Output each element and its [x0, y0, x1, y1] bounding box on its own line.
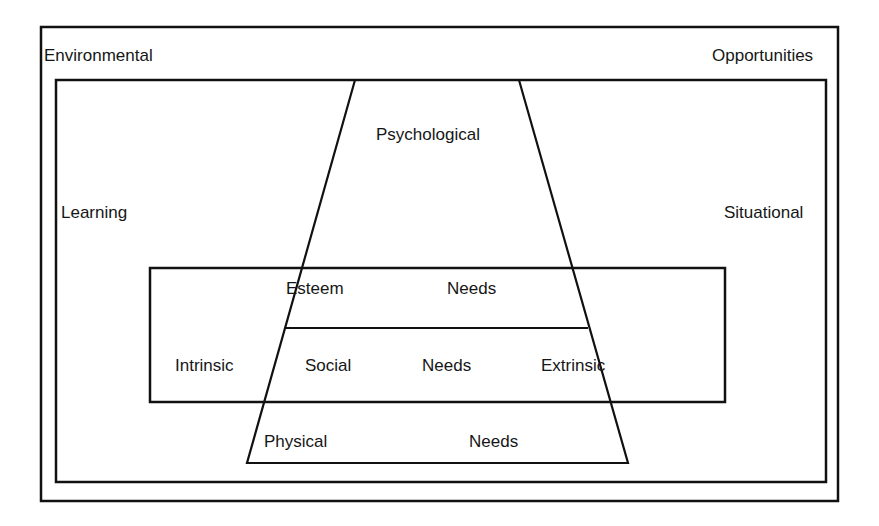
esteem-label: Esteem	[286, 279, 344, 299]
social-needs-label: Needs	[422, 356, 471, 376]
learning-label: Learning	[61, 203, 127, 223]
physical-needs-label: Needs	[469, 432, 518, 452]
esteem-needs-label: Needs	[447, 279, 496, 299]
extrinsic-label: Extrinsic	[541, 356, 605, 376]
physical-label: Physical	[264, 432, 327, 452]
opportunities-label: Opportunities	[712, 46, 813, 66]
outer-frame	[41, 27, 838, 501]
social-label: Social	[305, 356, 351, 376]
situational-label: Situational	[724, 203, 803, 223]
middle-band	[150, 268, 725, 402]
environmental-label: Environmental	[44, 46, 153, 66]
pyramid-top-label: Psychological	[376, 125, 480, 145]
intrinsic-label: Intrinsic	[175, 356, 234, 376]
diagram-lines	[0, 0, 879, 526]
